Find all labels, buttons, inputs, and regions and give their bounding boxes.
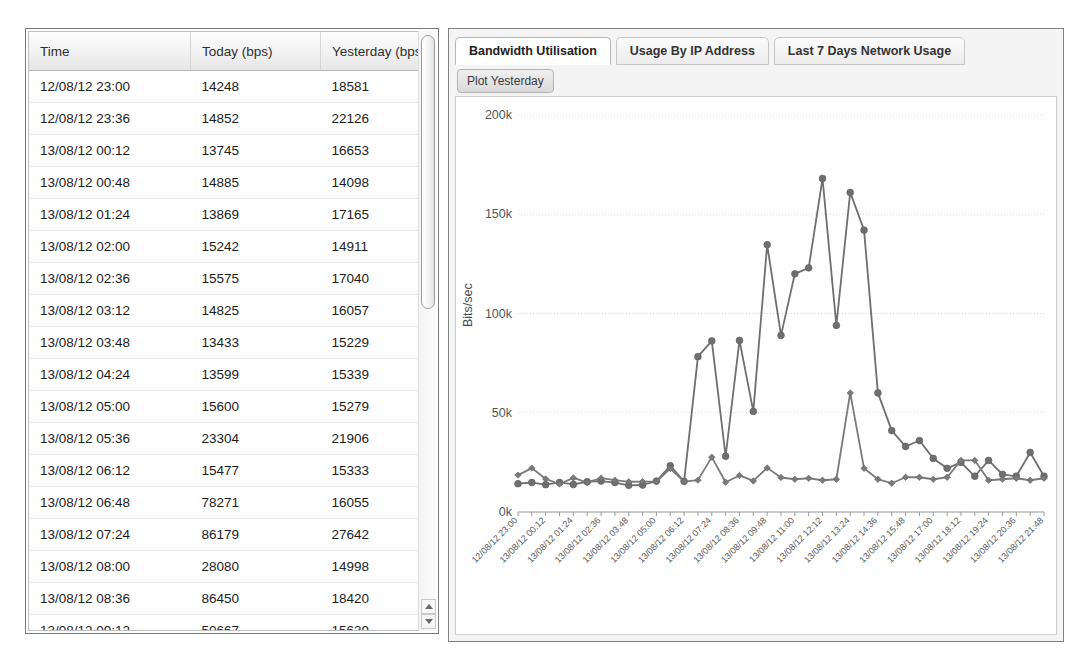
scrollbar-up-arrow-button[interactable]: [421, 599, 436, 614]
table-cell: 14248: [191, 71, 321, 103]
table-cell: 12/08/12 23:00: [29, 71, 191, 103]
table-row[interactable]: 13/08/12 06:121547715333: [29, 455, 436, 487]
column-header-today[interactable]: Today (bps): [191, 32, 321, 71]
chart-series-today: [515, 175, 1048, 489]
table-cell: 23304: [191, 423, 321, 455]
table-cell: 13/08/12 06:12: [29, 455, 191, 487]
table-row[interactable]: 13/08/12 00:121374516653: [29, 135, 436, 167]
tab-bandwidth-utilisation[interactable]: Bandwidth Utilisation: [455, 37, 611, 65]
table-body: 12/08/12 23:00142481858112/08/12 23:3614…: [29, 71, 436, 632]
table-row[interactable]: 12/08/12 23:361485222126: [29, 103, 436, 135]
table-row[interactable]: 13/08/12 06:487827116055: [29, 487, 436, 519]
table-cell: 12/08/12 23:36: [29, 103, 191, 135]
chart-panel: Bandwidth Utilisation Usage By IP Addres…: [448, 28, 1064, 642]
table-row[interactable]: 13/08/12 05:362330421906: [29, 423, 436, 455]
table-cell: 28080: [191, 551, 321, 583]
table-cell: 13/08/12 03:12: [29, 295, 191, 327]
table-cell: 13/08/12 05:36: [29, 423, 191, 455]
table-row[interactable]: 13/08/12 07:248617927642: [29, 519, 436, 551]
table-cell: 13/08/12 08:36: [29, 583, 191, 615]
table-cell: 13745: [191, 135, 321, 167]
table-row[interactable]: 13/08/12 02:001524214911: [29, 231, 436, 263]
table-cell: 13/08/12 03:48: [29, 327, 191, 359]
table-cell: 13/08/12 07:24: [29, 519, 191, 551]
table-cell: 86179: [191, 519, 321, 551]
table-row[interactable]: 13/08/12 08:002808014998: [29, 551, 436, 583]
plot-yesterday-button[interactable]: Plot Yesterday: [457, 69, 554, 93]
table-cell: 14825: [191, 295, 321, 327]
table-cell: 15242: [191, 231, 321, 263]
table-header-row: Time Today (bps) Yesterday (bps): [29, 32, 436, 71]
table-cell: 13599: [191, 359, 321, 391]
chart-plot-area[interactable]: Bits/sec 0k50k100k150k200k 12/08/12 23:0…: [455, 96, 1057, 635]
bandwidth-line-chart: 12/08/12 23:0013/08/12 00:1213/08/12 01:…: [456, 97, 1056, 634]
plot-toolbar: Plot Yesterday: [457, 69, 554, 93]
table-row[interactable]: 13/08/12 01:241386917165: [29, 199, 436, 231]
table-cell: 13/08/12 01:24: [29, 199, 191, 231]
bandwidth-data-table-panel: Time Today (bps) Yesterday (bps) 12/08/1…: [25, 28, 439, 634]
table-cell: 86450: [191, 583, 321, 615]
table-scroll-viewport[interactable]: Time Today (bps) Yesterday (bps) 12/08/1…: [28, 31, 436, 631]
bandwidth-table: Time Today (bps) Yesterday (bps) 12/08/1…: [29, 32, 436, 631]
table-cell: 13433: [191, 327, 321, 359]
table-cell: 50667: [191, 615, 321, 632]
scrollbar-down-arrow-button[interactable]: [421, 614, 436, 629]
table-row[interactable]: 13/08/12 02:361557517040: [29, 263, 436, 295]
table-row[interactable]: 13/08/12 03:481343315229: [29, 327, 436, 359]
table-row[interactable]: 13/08/12 03:121482516057: [29, 295, 436, 327]
table-cell: 13/08/12 00:48: [29, 167, 191, 199]
table-row[interactable]: 13/08/12 09:125066715639: [29, 615, 436, 632]
table-cell: 78271: [191, 487, 321, 519]
table-row[interactable]: 13/08/12 05:001560015279: [29, 391, 436, 423]
column-header-time[interactable]: Time: [29, 32, 191, 71]
tab-usage-by-ip-address[interactable]: Usage By IP Address: [616, 37, 769, 65]
table-cell: 14852: [191, 103, 321, 135]
table-cell: 13/08/12 02:00: [29, 231, 191, 263]
table-cell: 13/08/12 06:48: [29, 487, 191, 519]
table-cell: 15600: [191, 391, 321, 423]
table-cell: 15575: [191, 263, 321, 295]
table-cell: 13869: [191, 199, 321, 231]
table-cell: 13/08/12 09:12: [29, 615, 191, 632]
table-cell: 14885: [191, 167, 321, 199]
tab-last-7-days-network-usage[interactable]: Last 7 Days Network Usage: [774, 37, 965, 65]
table-cell: 13/08/12 05:00: [29, 391, 191, 423]
table-cell: 15477: [191, 455, 321, 487]
table-row[interactable]: 13/08/12 00:481488514098: [29, 167, 436, 199]
triangle-down-icon: [425, 619, 433, 624]
chart-tab-bar: Bandwidth Utilisation Usage By IP Addres…: [455, 35, 1057, 65]
table-row[interactable]: 13/08/12 04:241359915339: [29, 359, 436, 391]
table-cell: 13/08/12 04:24: [29, 359, 191, 391]
triangle-up-icon: [425, 604, 433, 609]
table-row[interactable]: 13/08/12 08:368645018420: [29, 583, 436, 615]
chart-series-yesterday: [515, 390, 1047, 488]
table-vertical-scrollbar[interactable]: [418, 31, 436, 631]
table-cell: 13/08/12 02:36: [29, 263, 191, 295]
scrollbar-thumb[interactable]: [421, 35, 435, 309]
table-cell: 13/08/12 08:00: [29, 551, 191, 583]
table-cell: 13/08/12 00:12: [29, 135, 191, 167]
table-row[interactable]: 12/08/12 23:001424818581: [29, 71, 436, 103]
